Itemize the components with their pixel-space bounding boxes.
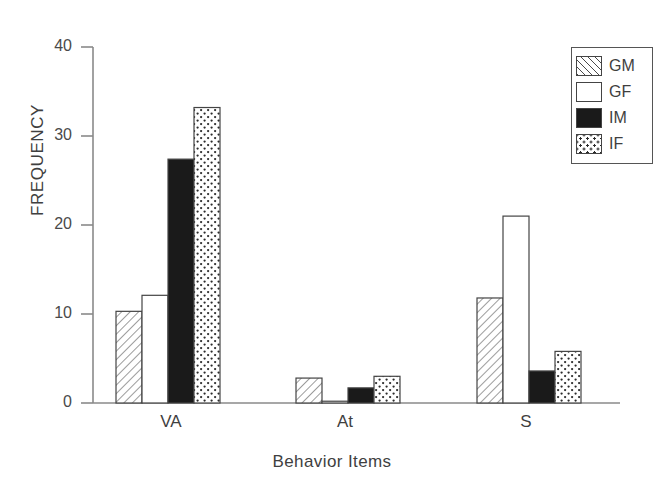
legend-label-im: IM [609, 110, 627, 126]
legend-item-im: IM [576, 105, 648, 131]
bar-va-gf [142, 295, 168, 403]
bar-s-gm [477, 298, 503, 403]
legend-swatch-im [576, 108, 602, 128]
legend-swatch-gf [576, 82, 602, 102]
bar-at-im [348, 388, 374, 403]
legend-swatch-if [576, 134, 602, 154]
bar-va-if [194, 108, 220, 403]
legend-label-if: IF [609, 136, 623, 152]
bar-s-gf [503, 216, 529, 403]
legend: GM GF IM IF [571, 47, 653, 164]
legend-label-gf: GF [609, 84, 631, 100]
legend-item-gf: GF [576, 79, 648, 105]
bar-group-container [116, 108, 581, 403]
bar-at-gf [322, 401, 348, 403]
legend-item-if: IF [576, 131, 648, 157]
bar-s-if [555, 351, 581, 403]
legend-item-gm: GM [576, 53, 648, 79]
bar-chart-figure: FREQUENCY Behavior Items 40 30 20 10 0 V… [0, 0, 664, 486]
legend-label-gm: GM [609, 58, 635, 74]
bar-va-gm [116, 311, 142, 403]
bar-at-if [374, 376, 400, 403]
legend-swatch-gm [576, 56, 602, 76]
bar-s-im [529, 371, 555, 403]
bar-at-gm [296, 378, 322, 403]
bar-va-im [168, 159, 194, 403]
plot-area [0, 0, 664, 486]
